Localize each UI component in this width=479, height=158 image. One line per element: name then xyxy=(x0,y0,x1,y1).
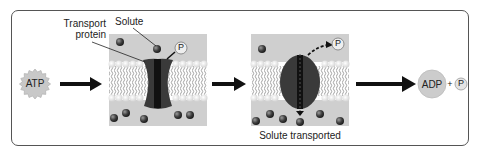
label-transport-line1: Transport xyxy=(54,18,106,29)
label-adp: ADP xyxy=(418,79,446,90)
label-solute-transported: Solute transported xyxy=(252,130,348,141)
label-transport-line2: protein xyxy=(54,29,106,40)
label-solute: Solute xyxy=(115,16,143,27)
label-phosphate-released: P xyxy=(333,38,343,49)
arrow-right-icon xyxy=(60,77,102,91)
label-atp: ATP xyxy=(22,78,48,89)
arrow-right-icon xyxy=(356,76,416,92)
label-phosphate-bound: P xyxy=(176,42,186,53)
arrow-right-icon xyxy=(212,77,246,91)
label-plus: + xyxy=(446,79,454,90)
membrane-panel-1 xyxy=(109,34,208,126)
label-transport-protein: Transport protein xyxy=(54,18,106,40)
label-phosphate-final: P xyxy=(456,78,466,89)
